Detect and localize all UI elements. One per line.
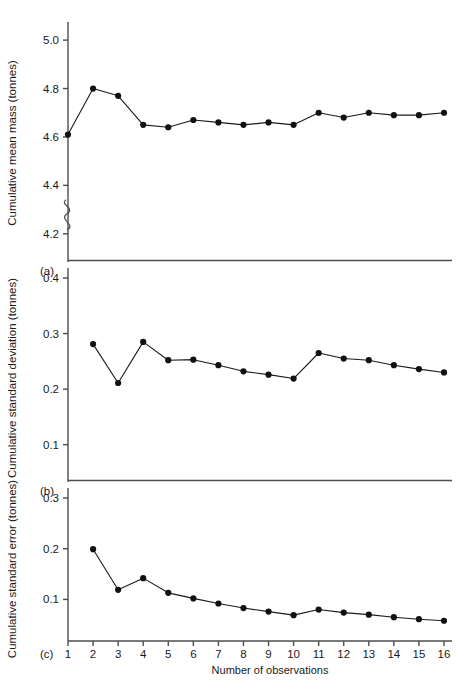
data-point-a-n6	[190, 117, 196, 123]
panel-label-c: (c)	[40, 648, 54, 660]
x-tick-label-6: 6	[190, 648, 196, 660]
figure-container: 5.04.84.64.44.20.40.30.20.10.30.20.11234…	[0, 0, 460, 682]
data-point-c-n7	[215, 600, 221, 606]
data-point-c-n9	[265, 609, 271, 615]
x-tick-label-2: 2	[90, 648, 96, 660]
data-point-c-n16	[441, 618, 447, 624]
data-point-a-n14	[391, 112, 397, 118]
data-point-b-n3	[115, 380, 121, 386]
data-point-b-n11	[316, 350, 322, 356]
data-point-c-n10	[291, 612, 297, 618]
series-line-a	[68, 89, 444, 135]
data-point-c-n3	[115, 587, 121, 593]
data-point-c-n8	[240, 605, 246, 611]
y-tick-label-b-2: 0.2	[43, 383, 59, 395]
y-tick-label-a-3: 4.4	[43, 179, 60, 191]
data-point-a-n16	[441, 110, 447, 116]
x-tick-label-3: 3	[115, 648, 121, 660]
data-point-b-n14	[391, 362, 397, 368]
y-axis-label-a: Cumulative mean mass (tonnes)	[6, 60, 18, 226]
y-tick-label-b-3: 0.1	[43, 439, 59, 451]
x-tick-label-12: 12	[337, 648, 350, 660]
x-tick-label-8: 8	[240, 648, 246, 660]
x-tick-label-5: 5	[165, 648, 171, 660]
data-point-b-n10	[291, 375, 297, 381]
data-point-a-n7	[215, 119, 221, 125]
x-tick-label-1: 1	[65, 648, 71, 660]
y-tick-label-a-0: 5.0	[43, 34, 59, 46]
data-point-c-n2	[90, 546, 96, 552]
y-tick-label-b-1: 0.3	[43, 328, 59, 340]
data-point-a-n13	[366, 110, 372, 116]
y-tick-label-a-1: 4.8	[43, 83, 59, 95]
x-tick-label-7: 7	[215, 648, 221, 660]
data-point-c-n15	[416, 616, 422, 622]
x-axis-label: Number of observations	[212, 664, 329, 676]
x-tick-label-15: 15	[413, 648, 426, 660]
y-tick-label-c-1: 0.2	[43, 543, 59, 555]
data-point-b-n7	[215, 362, 221, 368]
x-tick-label-10: 10	[287, 648, 300, 660]
axis-break-squiggle	[64, 200, 70, 230]
data-point-a-n12	[341, 114, 347, 120]
data-point-b-n15	[416, 366, 422, 372]
data-point-a-n4	[140, 122, 146, 128]
data-point-c-n5	[165, 590, 171, 596]
data-point-c-n14	[391, 614, 397, 620]
data-point-a-n8	[240, 122, 246, 128]
data-point-b-n13	[366, 357, 372, 363]
y-axis-label-c: Cumulative standard error (tonnes)	[6, 480, 18, 658]
x-tick-label-4: 4	[140, 648, 147, 660]
data-point-b-n2	[90, 341, 96, 347]
y-axis-label-b: Cumulative standard deviation (tonnes)	[6, 278, 18, 478]
y-tick-label-c-2: 0.1	[43, 593, 59, 605]
data-point-a-n9	[265, 119, 271, 125]
data-point-b-n4	[140, 339, 146, 345]
panel-label-a: (a)	[40, 265, 54, 277]
data-point-c-n11	[316, 606, 322, 612]
y-tick-label-a-2: 4.6	[43, 131, 59, 143]
data-point-b-n5	[165, 357, 171, 363]
data-point-a-n10	[291, 122, 297, 128]
x-tick-label-9: 9	[265, 648, 271, 660]
data-point-b-n16	[441, 369, 447, 375]
data-point-a-n2	[90, 85, 96, 91]
panel-label-b: (b)	[40, 485, 54, 497]
data-point-b-n12	[341, 355, 347, 361]
data-point-a-n1	[65, 131, 71, 137]
x-tick-label-14: 14	[387, 648, 400, 660]
data-point-a-n15	[416, 112, 422, 118]
data-point-c-n4	[140, 575, 146, 581]
data-point-a-n5	[165, 124, 171, 130]
x-tick-label-13: 13	[362, 648, 375, 660]
data-point-a-n3	[115, 93, 121, 99]
data-point-b-n8	[240, 368, 246, 374]
three-panel-line-chart: 5.04.84.64.44.20.40.30.20.10.30.20.11234…	[0, 0, 460, 682]
data-point-a-n11	[316, 110, 322, 116]
data-point-b-n9	[265, 372, 271, 378]
data-point-b-n6	[190, 357, 196, 363]
data-point-c-n12	[341, 610, 347, 616]
data-point-c-n13	[366, 612, 372, 618]
x-tick-label-11: 11	[313, 648, 325, 660]
x-tick-label-16: 16	[438, 648, 451, 660]
y-tick-label-a-4: 4.2	[43, 228, 59, 240]
data-point-c-n6	[190, 595, 196, 601]
